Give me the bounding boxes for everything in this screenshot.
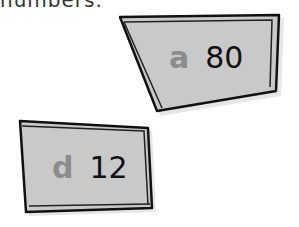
card-a-label: a80 xyxy=(169,40,243,75)
card-d-letter: d xyxy=(52,150,73,185)
cards-canvas xyxy=(0,0,299,227)
card-a-letter: a xyxy=(169,40,189,75)
card-d-number: 12 xyxy=(89,150,127,185)
card-a-number: 80 xyxy=(205,40,243,75)
card-d-label: d12 xyxy=(52,150,128,185)
